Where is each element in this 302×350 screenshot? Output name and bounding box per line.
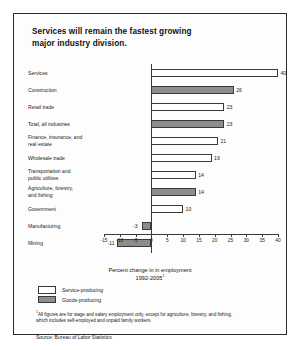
bar-category-label-line: Finance, insurance, and: [28, 134, 100, 141]
legend-label-service: Service-producing: [62, 287, 103, 293]
bar-chart-plot: Services40Construction26Retail trade23To…: [24, 62, 278, 252]
axis-tick-label: -5: [133, 238, 137, 243]
axis-tick-label: 10: [180, 238, 185, 243]
chart-card: Services will remain the fastest growing…: [13, 13, 287, 335]
axis-tick-label: 15: [196, 238, 201, 243]
axis-tick: [104, 234, 105, 237]
bar-category-label: Manufacturing: [28, 223, 100, 230]
axis-tick-label: 30: [244, 238, 249, 243]
axis-tick-label: 5: [166, 238, 169, 243]
bar-value-label: -3: [133, 223, 138, 229]
bar-value-label: 40: [281, 70, 287, 76]
bar-value-label: 23: [227, 104, 233, 110]
axis-tick-label: -15: [101, 238, 108, 243]
bar-category-label-line: Agriculture, forestry,: [28, 185, 100, 192]
bar-category-label: Wholesale trade: [28, 155, 100, 162]
bar-value-label: 23: [227, 121, 233, 127]
title-line-2: major industry division.: [32, 38, 252, 50]
bar-category-label: Construction: [28, 86, 100, 93]
zero-baseline: [151, 64, 152, 253]
axis-tick: [262, 234, 263, 237]
bar-category-label-line: real estate: [28, 141, 100, 148]
axis-tick: [183, 234, 184, 237]
axis-tick: [136, 234, 137, 237]
bar-category-label-line: Government: [28, 206, 100, 213]
bar[interactable]: [151, 188, 195, 196]
bar-category-label: Mining: [28, 240, 100, 247]
bar-track: 23: [104, 115, 278, 132]
bar[interactable]: [151, 103, 224, 111]
bar[interactable]: [151, 137, 217, 145]
bar-track: 14: [104, 184, 278, 201]
bar-track: -11: [104, 235, 278, 252]
axis-tick-label: 20: [212, 238, 217, 243]
bar[interactable]: [151, 120, 224, 128]
axis-tick-label: 40: [275, 238, 280, 243]
bar-value-label: 14: [198, 189, 204, 195]
axis-tick: [167, 234, 168, 237]
bar-category-label: Transportation andpublic utilities: [28, 168, 100, 182]
bar-category-label-line: public utilities: [28, 175, 100, 182]
axis-tick-label: -10: [116, 238, 123, 243]
axis-tick: [199, 234, 200, 237]
axis-line: [104, 234, 278, 235]
page-title: Services will remain the fastest growing…: [32, 26, 252, 50]
bar-track: 40: [104, 64, 278, 81]
bar-value-label: 19: [214, 155, 220, 161]
bar-category-label-line: Mining: [28, 240, 100, 247]
bar-category-label-line: Manufacturing: [28, 223, 100, 230]
axis-tick: [231, 234, 232, 237]
bar-value-label: -11: [108, 240, 115, 246]
bar-category-label-line: Services: [28, 69, 100, 76]
bar-value-label: 10: [186, 206, 192, 212]
bar-category-label-line: Construction: [28, 86, 100, 93]
axis-title-line-2: 1992-2005: [136, 275, 163, 281]
bar-value-label: 26: [236, 87, 242, 93]
legend-label-goods: Goods-producing: [62, 297, 101, 303]
bar-track: 26: [104, 81, 278, 98]
bar-category-label: Finance, insurance, andreal estate: [28, 134, 100, 148]
bar[interactable]: [151, 154, 211, 162]
axis-tick: [120, 234, 121, 237]
legend-item-service: Service-producing: [38, 286, 103, 294]
bar-category-label-line: Total, all industries: [28, 120, 100, 127]
axis-title: Percent change in in employment 1992-200…: [14, 266, 286, 283]
axis-tick-label: 35: [260, 238, 265, 243]
legend-swatch-goods-icon: [38, 296, 56, 304]
bar[interactable]: [151, 171, 195, 179]
bar[interactable]: [151, 205, 183, 213]
axis-title-footnote-marker: 1: [162, 275, 164, 279]
source-line: Source: Bureau of Labor Statistics: [36, 334, 112, 340]
bar-track: 19: [104, 149, 278, 166]
axis-tick: [278, 234, 279, 237]
bar-value-label: 21: [220, 138, 226, 144]
legend-swatch-service-icon: [38, 286, 56, 294]
legend: Service-producing Goods-producing: [38, 286, 103, 305]
bar[interactable]: [142, 222, 151, 230]
bar-track: 10: [104, 201, 278, 218]
bar-category-label: Services: [28, 69, 100, 76]
footnote: 1All figures are for wage and salary emp…: [36, 310, 241, 325]
bar-track: 14: [104, 167, 278, 184]
bar-track: -3: [104, 218, 278, 235]
bar-category-label-line: Wholesale trade: [28, 155, 100, 162]
bar-category-label: Total, all industries: [28, 120, 100, 127]
bar[interactable]: [151, 69, 278, 77]
bar[interactable]: [151, 86, 233, 94]
axis-tick: [246, 234, 247, 237]
axis-title-line-1: Percent change in in employment: [108, 267, 191, 273]
bar-category-label: Retail trade: [28, 103, 100, 110]
bar-value-label: 14: [198, 172, 204, 178]
bar-track: 21: [104, 132, 278, 149]
bar-category-label-line: and fishing: [28, 192, 100, 199]
title-line-1: Services will remain the fastest growing: [32, 26, 252, 38]
bar-category-label: Agriculture, forestry,and fishing: [28, 185, 100, 199]
bar-track: 23: [104, 98, 278, 115]
axis-tick: [215, 234, 216, 237]
bar-category-label-line: Transportation and: [28, 168, 100, 175]
axis-tick-label: 25: [228, 238, 233, 243]
legend-item-goods: Goods-producing: [38, 296, 103, 304]
bar-category-label-line: Retail trade: [28, 103, 100, 110]
footnote-text: All figures are for wage and salary empl…: [36, 312, 232, 324]
bar-category-label: Government: [28, 206, 100, 213]
